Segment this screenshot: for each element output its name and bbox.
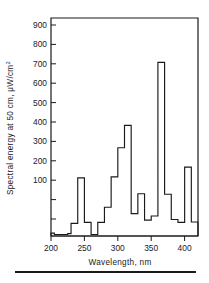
y-axis-title: Spectral energy at 50 cm, μW/cm2 xyxy=(5,61,15,195)
x-axis-title: Wavelength, nm xyxy=(88,258,151,267)
x-tick-labels: 200 250 300 350 400 xyxy=(44,243,192,253)
y-tick-labels: 900 800 700 600 500 400 300 200 100 xyxy=(33,20,47,185)
chart-figure: 900 800 700 600 500 400 300 200 100 200 … xyxy=(0,0,209,283)
y-tick-label: 400 xyxy=(33,117,47,127)
x-tick-label: 200 xyxy=(44,243,58,253)
spectral-step-curve xyxy=(51,62,198,236)
y-axis-title-main: Spectral energy at 50 cm, μW/cm xyxy=(6,65,15,196)
spectral-energy-chart: 900 800 700 600 500 400 300 200 100 200 … xyxy=(0,0,209,283)
y-tick-label: 200 xyxy=(33,156,47,166)
y-tick-label: 800 xyxy=(33,39,47,49)
x-tick-label: 300 xyxy=(111,243,125,253)
x-tick-label: 400 xyxy=(178,243,192,253)
y-tick-label: 100 xyxy=(33,175,47,185)
y-tick-label: 600 xyxy=(33,78,47,88)
figure-bottom-rule xyxy=(15,271,196,273)
y-tick-label: 300 xyxy=(33,136,47,146)
y-axis-ticks xyxy=(51,25,56,219)
x-tick-label: 250 xyxy=(77,243,91,253)
y-tick-label: 900 xyxy=(33,20,47,30)
y-tick-label: 700 xyxy=(33,59,47,69)
x-axis-ticks xyxy=(51,236,185,241)
y-axis-title-exponent: 2 xyxy=(5,61,11,65)
y-tick-label: 500 xyxy=(33,98,47,108)
svg-text:Spectral energy at 50 cm, μW/c: Spectral energy at 50 cm, μW/cm2 xyxy=(5,61,15,195)
x-tick-label: 350 xyxy=(144,243,158,253)
